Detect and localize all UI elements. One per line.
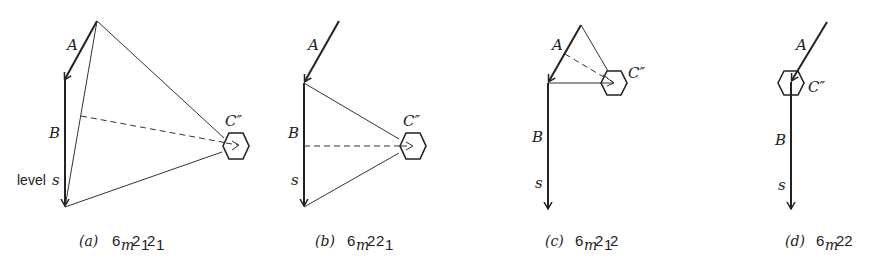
label-c: C″ bbox=[808, 78, 825, 96]
label-s: s bbox=[291, 171, 299, 189]
caption-tag: (a) bbox=[79, 233, 98, 249]
dashed-arrow bbox=[81, 116, 238, 145]
caption-tag: (b) bbox=[315, 233, 335, 249]
caption-n1: 2 bbox=[132, 232, 140, 249]
caption-tag: (c) bbox=[545, 233, 564, 249]
caption-s2: 1 bbox=[156, 236, 164, 253]
caption-s2: 1 bbox=[385, 236, 393, 253]
label-b: B bbox=[774, 131, 786, 149]
label-s: s bbox=[535, 174, 543, 192]
caption-n1: 2 bbox=[367, 232, 375, 249]
caption-tag: (d) bbox=[785, 233, 805, 249]
edge-bottom-hex bbox=[65, 152, 222, 207]
edge-apex-hex bbox=[97, 21, 224, 138]
label-a: A bbox=[550, 36, 563, 54]
label-b: B bbox=[531, 128, 543, 146]
label-c: C″ bbox=[225, 112, 242, 130]
caption-c: (c) 6 m 2 1 2 bbox=[545, 232, 618, 253]
label-c: C″ bbox=[628, 64, 645, 82]
label-a: A bbox=[794, 36, 807, 54]
label-s: s bbox=[778, 176, 786, 194]
caption-base: 6 bbox=[112, 232, 120, 249]
edge-bottom-hex bbox=[304, 153, 399, 207]
caption-n2: 2 bbox=[610, 232, 618, 249]
space-group-diagram: A B C″ level s (a) 6 m 2 1 2 1 A B C″ s … bbox=[0, 0, 872, 268]
caption-d: (d) 6 m 22 bbox=[785, 232, 853, 253]
panel-b: A B C″ s (b) 6 m 2 2 1 bbox=[287, 21, 426, 253]
caption-b: (b) 6 m 2 2 1 bbox=[315, 232, 393, 253]
caption-n1: 2 bbox=[595, 232, 603, 249]
caption-n2: 2 bbox=[376, 232, 384, 249]
label-s: s bbox=[52, 171, 60, 189]
panel-a: A B C″ level s (a) 6 m 2 1 2 1 bbox=[17, 21, 249, 253]
caption-base: 6 bbox=[347, 232, 355, 249]
label-c: C″ bbox=[403, 112, 420, 130]
caption-base: 6 bbox=[575, 232, 583, 249]
edge-apex-hex bbox=[581, 25, 608, 71]
caption-a: (a) 6 m 2 1 2 1 bbox=[79, 232, 164, 253]
label-a: A bbox=[306, 36, 319, 54]
label-b: B bbox=[287, 124, 299, 142]
panel-d: A B C″ s (d) 6 m 22 bbox=[774, 22, 853, 253]
panel-c: A B C″ s (c) 6 m 2 1 2 bbox=[531, 25, 645, 253]
hexagon-icon bbox=[223, 133, 249, 159]
caption-base: 6 bbox=[816, 232, 824, 249]
label-b: B bbox=[48, 124, 60, 142]
caption-n1: 22 bbox=[836, 232, 853, 249]
label-a: A bbox=[65, 36, 78, 54]
edge-top-hex bbox=[304, 83, 399, 139]
label-level: level bbox=[17, 172, 46, 188]
caption-n2: 2 bbox=[147, 232, 155, 249]
